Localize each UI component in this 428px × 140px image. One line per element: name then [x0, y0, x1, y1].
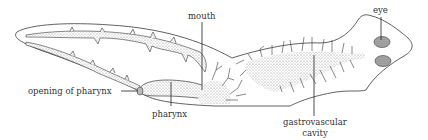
- mouth-region: [196, 81, 231, 104]
- label-mouth: mouth: [188, 12, 216, 21]
- planarian-diagram: [0, 0, 428, 140]
- eye-lower: [375, 56, 391, 67]
- label-gastrovascular-cavity-line1: gastrovascular: [282, 118, 348, 127]
- gastrovascular-cavity: [236, 37, 365, 92]
- label-gastrovascular-cavity-line2: cavity: [282, 129, 348, 138]
- label-opening-of-pharynx: opening of pharynx: [28, 87, 111, 96]
- gut-branch-lower-left: [26, 42, 140, 90]
- label-eye: eye: [373, 6, 388, 15]
- eye-upper: [374, 37, 390, 48]
- label-pharynx: pharynx: [152, 110, 187, 119]
